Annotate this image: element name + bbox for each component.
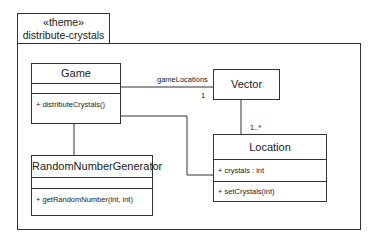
multiplicity-location: 1..* xyxy=(250,123,261,132)
class-location[interactable]: Location + crystals : int + setCrystals(… xyxy=(213,134,327,202)
operation: + getRandomNumber(int, int) xyxy=(36,195,133,204)
class-random-number-generator[interactable]: RandomNumberGenerator + getRandomNumber(… xyxy=(31,155,153,216)
multiplicity-vector: 1 xyxy=(201,91,205,100)
operation: + distributeCrystals() xyxy=(36,100,105,109)
operations-compartment: + distributeCrystals() xyxy=(32,93,120,124)
class-name: Game xyxy=(32,64,120,83)
attributes-compartment: + crystals : int xyxy=(214,159,326,181)
attribute: + crystals : int xyxy=(218,166,264,175)
class-name: Vector xyxy=(214,70,279,99)
operations-compartment: + setCrystals(int) xyxy=(214,181,326,202)
class-name: Location xyxy=(214,135,326,159)
attributes-compartment xyxy=(32,177,152,188)
class-vector[interactable]: Vector xyxy=(213,69,280,100)
class-game[interactable]: Game + distributeCrystals() xyxy=(31,63,121,124)
role-label-game-locations: gameLocations xyxy=(157,75,208,84)
package-stereotype: «theme» xyxy=(18,16,109,29)
operations-compartment: + getRandomNumber(int, int) xyxy=(32,188,152,216)
package-name: distribute-crystals xyxy=(18,29,109,42)
class-name: RandomNumberGenerator xyxy=(32,156,152,177)
operation: + setCrystals(int) xyxy=(218,187,274,196)
attributes-compartment xyxy=(32,83,120,93)
package-tab: «theme» distribute-crystals xyxy=(17,13,110,44)
